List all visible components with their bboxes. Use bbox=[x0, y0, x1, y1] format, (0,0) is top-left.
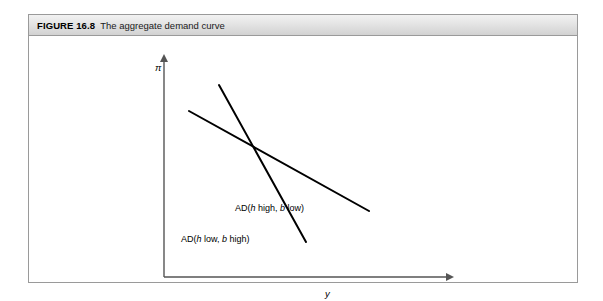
curve-label-prefix: AD( bbox=[181, 234, 197, 244]
figure-container: FIGURE 16.8 The aggregate demand curve π… bbox=[28, 14, 578, 283]
figure-number: FIGURE 16.8 bbox=[37, 20, 95, 31]
curve-label-mid: low, bbox=[202, 234, 223, 244]
curve-label-suffix: low) bbox=[285, 203, 304, 213]
ad-curve-h-high-b-low bbox=[189, 111, 369, 211]
ad-curve-h-low-b-high bbox=[219, 85, 306, 242]
y-axis-label: π bbox=[155, 63, 161, 73]
aggregate-demand-chart bbox=[29, 36, 577, 283]
x-axis-label: y bbox=[325, 289, 330, 299]
figure-caption-bar: FIGURE 16.8 The aggregate demand curve bbox=[29, 15, 577, 36]
curve-label-ad-h-high-b-low: AD(h high, b low) bbox=[235, 204, 304, 213]
chart-plot-area: π y AD(h high, b low) AD(h low, b high) bbox=[29, 36, 577, 283]
curve-label-ad-h-low-b-high: AD(h low, b high) bbox=[181, 235, 250, 244]
figure-title: The aggregate demand curve bbox=[100, 20, 225, 31]
curve-label-mid: high, bbox=[256, 203, 281, 213]
curve-label-suffix: high) bbox=[227, 234, 250, 244]
curve-label-prefix: AD( bbox=[235, 203, 251, 213]
